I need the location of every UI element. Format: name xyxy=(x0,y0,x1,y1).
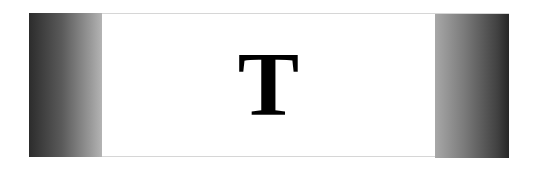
right-gradient-panel xyxy=(435,14,509,158)
banner-letter: T xyxy=(102,13,435,157)
left-gradient-panel xyxy=(29,13,102,157)
